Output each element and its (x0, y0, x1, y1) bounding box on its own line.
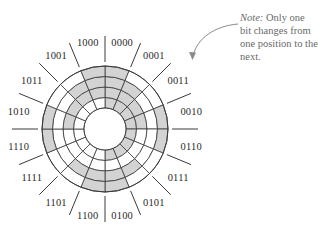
note-arrow-icon (189, 24, 238, 60)
code-label-0001: 0001 (143, 50, 165, 61)
code-label-0011: 0011 (167, 75, 188, 86)
note-prefix: Note: (240, 12, 263, 23)
center-hole (84, 108, 126, 150)
code-label-0101: 0101 (143, 197, 165, 208)
code-label-0100: 0100 (111, 210, 133, 221)
sector-divider-tick (167, 93, 191, 103)
sector-divider-tick (19, 155, 43, 165)
code-label-0111: 0111 (168, 172, 189, 183)
gray-code-disk-figure: 0000000100110010011001110101010011001101… (0, 0, 318, 231)
sector-divider-tick (167, 155, 191, 165)
code-label-0110: 0110 (181, 141, 202, 152)
code-label-1101: 1101 (45, 197, 66, 208)
code-label-1110: 1110 (8, 141, 29, 152)
sector-divider-tick (19, 93, 43, 103)
note-annotation: Note: Only one bit changes from one posi… (240, 11, 318, 63)
disk-segments (42, 66, 168, 192)
code-label-1000: 1000 (77, 37, 99, 48)
code-label-0000: 0000 (111, 37, 133, 48)
code-label-1111: 1111 (22, 172, 43, 183)
code-label-1011: 1011 (21, 75, 42, 86)
code-label-1100: 1100 (77, 210, 98, 221)
code-label-1010: 1010 (8, 106, 30, 117)
code-label-1001: 1001 (45, 50, 67, 61)
code-label-0010: 0010 (180, 106, 202, 117)
